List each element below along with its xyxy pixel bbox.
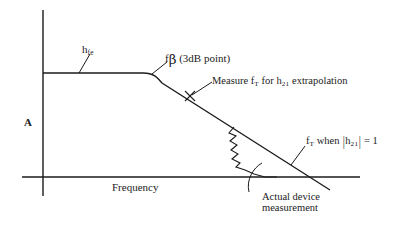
label-hfe-subscript: fe <box>88 48 94 57</box>
ft-unity-part3: = 1 <box>361 135 377 146</box>
actual-device-line2: measurement <box>262 202 320 213</box>
frequency-response-diagram <box>0 0 411 232</box>
measure-ft-part2: for h <box>259 75 282 86</box>
label-fbeta-note: (3dB point) <box>179 52 230 64</box>
y-axis-label: A <box>24 117 32 129</box>
actual-device-line1: Actual device <box>262 191 320 202</box>
label-fbeta: fβ (3dB point) <box>165 53 230 67</box>
ft-unity-bar-close: | <box>358 132 361 148</box>
ft-unity-sub-21: 21 <box>351 140 359 148</box>
ft-unity-bar-open: | <box>342 132 345 148</box>
beta-symbol: β <box>169 52 177 67</box>
label-measure-ft: Measure fT for h21 extrapolation <box>212 75 347 89</box>
measure-ft-part1: Measure f <box>212 75 254 86</box>
ft-unity-part2: when <box>314 135 342 146</box>
x-axis-label: Frequency <box>112 182 158 194</box>
label-ft-unity: fT when |h21| = 1 <box>306 135 378 149</box>
ideal-response-curve <box>43 73 330 190</box>
leader-line-ft-unity <box>291 146 305 165</box>
label-actual-device-measurement: Actual device measurement <box>262 191 320 214</box>
measure-ft-part3: extrapolation <box>289 75 347 86</box>
label-hfe: hfe <box>82 44 94 57</box>
leader-line-measure-ft <box>192 82 212 95</box>
ft-measurement-x-marker <box>185 91 195 101</box>
